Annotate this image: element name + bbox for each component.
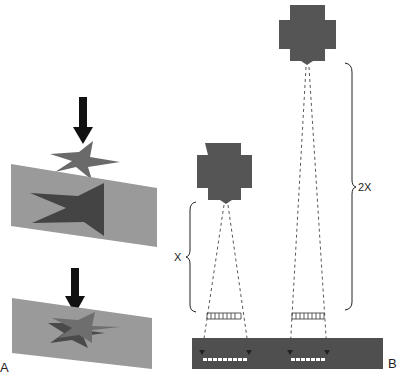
panel-label-a: A	[0, 360, 9, 375]
arrow-down-icon	[73, 97, 93, 144]
xray-source-far	[279, 5, 336, 65]
distance-label-2x: 2X	[358, 181, 372, 193]
beam-lines-far	[290, 67, 327, 352]
panel-a: A	[0, 97, 157, 375]
image-receptor	[192, 338, 383, 369]
panel-label-b: B	[388, 356, 397, 371]
object-near	[207, 313, 241, 319]
projected-image-far	[291, 358, 325, 361]
diagram-figure: A X	[0, 0, 403, 379]
distance-label-x: X	[174, 251, 182, 263]
distance-bracket-x	[186, 202, 196, 312]
object-far	[292, 313, 324, 319]
projected-image-near	[203, 358, 247, 361]
distance-bracket-2x	[345, 63, 356, 310]
xray-source-near	[197, 143, 252, 204]
panel-b: X 2X	[174, 5, 397, 371]
beam-lines-near	[202, 205, 249, 352]
